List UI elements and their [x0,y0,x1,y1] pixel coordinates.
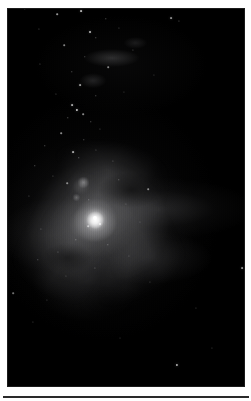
star [71,104,73,106]
star [24,9,25,10]
star [118,179,119,180]
ngc1977-wisp-layer [8,9,244,386]
star [211,347,212,348]
star [71,71,72,72]
star [65,275,66,276]
m43-loop-layer [8,9,244,386]
star [34,165,35,166]
star [149,281,150,282]
star [66,182,68,184]
star [12,292,14,294]
star [195,307,196,308]
star [76,109,78,111]
star [40,228,41,229]
bottom-rule [3,396,249,398]
star [125,203,126,204]
star [107,66,109,68]
star [87,225,89,227]
star [176,364,178,366]
star [95,149,96,150]
star [44,145,45,146]
star [178,20,179,21]
dark-dust-lane-layer [8,9,244,386]
star [56,13,58,15]
star [67,117,68,118]
star [80,10,82,12]
halftone-grain-layer [8,9,244,386]
star [112,160,113,161]
star [107,244,108,245]
star [84,56,85,57]
star [123,91,124,92]
star [95,37,96,38]
star [241,267,243,269]
star [120,338,121,339]
star [78,157,79,158]
starfield-layer [8,9,244,386]
star [72,151,74,153]
star [118,27,119,28]
star [93,216,97,220]
orion-nebula-image [8,9,244,386]
star [32,321,33,322]
star [63,44,65,46]
ngc1977-knots-layer [8,9,244,386]
star [99,128,100,129]
star [52,175,53,176]
star [94,267,95,268]
star [99,223,101,225]
star [28,195,29,196]
star [89,31,91,33]
star [60,132,62,134]
star [153,74,154,75]
star [95,95,96,96]
nebula-outer-wings-layer [8,9,244,386]
star [38,28,39,29]
star [46,299,47,300]
nebula-filament-layer [8,9,244,386]
star [82,113,84,115]
star [90,121,91,122]
star [75,239,76,240]
star [139,221,140,222]
star [37,259,38,260]
star [39,63,40,64]
sky-background-layer [8,9,244,386]
star [128,255,129,256]
star [170,17,172,19]
star [132,49,133,50]
star [105,18,106,19]
figure-page [0,0,251,401]
huygens-core-layer [8,9,244,386]
star [83,139,84,140]
star [147,188,149,190]
star [55,93,56,94]
star [88,199,89,200]
star [79,84,81,86]
star [57,251,58,252]
